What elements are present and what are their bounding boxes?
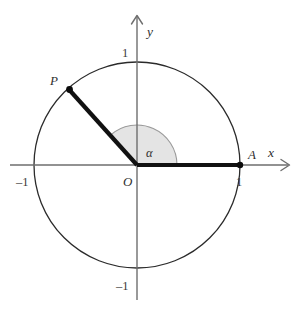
y-tick-label-positive-one: 1: [122, 46, 128, 60]
x-axis-label: x: [267, 145, 274, 160]
point-a-label: A: [247, 147, 256, 162]
y-tick-label-negative-one: –1: [115, 279, 129, 293]
point-a-dot: [237, 162, 243, 168]
point-o-label: O: [123, 174, 133, 189]
x-tick-label-negative-one: –1: [15, 175, 29, 189]
figure-canvas: P O A α x y 1 –1 1 –1: [0, 0, 300, 315]
point-p-label: P: [49, 73, 58, 88]
angle-alpha-label: α: [146, 146, 153, 160]
y-axis-label: y: [145, 24, 153, 39]
point-p-dot: [66, 86, 73, 93]
unit-circle-diagram: P O A α x y 1 –1 1 –1: [0, 0, 300, 315]
x-tick-label-positive-one: 1: [236, 175, 242, 189]
